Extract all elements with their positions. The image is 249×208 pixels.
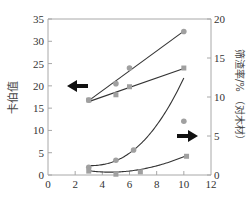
y-right-tick-label: 0 [214,169,220,181]
y-ticks-right: 05101520 [207,13,226,181]
data-point [113,157,119,163]
x-tick-label: 4 [100,178,106,190]
data-point [86,169,91,174]
data-point [113,172,118,177]
x-tick-label: 2 [72,178,78,190]
right-arrow-icon [177,130,198,142]
data-point [138,169,143,174]
y-right-tick-label: 10 [214,91,226,103]
y-axis-title-right: 筛渣率/% （对木材） [234,49,246,145]
chart: 024681012 05101520253035 05101520 卡伯值 筛渣… [0,0,249,208]
x-tick-label: 8 [154,178,160,190]
y-axis-title-left: 卡伯值 [6,81,20,114]
x-tick-label: 0 [45,178,51,190]
data-point [113,81,119,87]
data-point [181,66,186,71]
series [86,29,187,103]
y-left-tick-label: 5 [39,147,45,159]
y-right-tick-label: 15 [214,52,226,64]
left-arrow-icon [67,80,88,92]
y-left-tick-label: 25 [33,58,45,70]
data-point [86,98,91,103]
plot-frame [48,19,211,175]
data-point [127,84,132,89]
y-left-tick-label: 20 [33,80,45,92]
y-left-tick-label: 0 [39,169,45,181]
y-right-tick-label: 5 [214,130,220,142]
x-tick-label: 6 [127,178,133,190]
data-point [131,147,137,153]
y-left-tick-label: 35 [33,13,45,25]
y-left-tick-label: 10 [33,124,45,136]
data-point [113,92,118,97]
series [86,66,186,103]
x-tick-label: 10 [178,178,190,190]
y-left-tick-label: 15 [33,102,45,114]
x-ticks: 024681012 [45,171,216,190]
y-right-tick-label: 20 [214,13,226,25]
y-left-tick-label: 30 [33,35,45,47]
data-point [184,154,189,159]
data-point [181,118,187,124]
series-layer [86,29,189,177]
y-ticks-left: 05101520253035 [33,13,52,181]
data-point [181,29,187,35]
data-point [127,65,133,71]
